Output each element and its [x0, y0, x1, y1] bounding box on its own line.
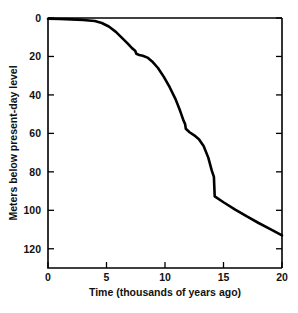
- x-tick-label: 15: [218, 271, 230, 283]
- x-tick-label: 20: [276, 271, 288, 283]
- y-axis-title: Meters below present-day level: [7, 65, 19, 220]
- y-tick-label: 100: [23, 204, 41, 216]
- y-axis-tick-labels: 020406080100120: [23, 12, 41, 255]
- caption-strip: [0, 301, 298, 313]
- y-tick-label: 20: [29, 50, 41, 62]
- x-tick-label: 0: [45, 271, 51, 283]
- y-tick-label: 60: [29, 127, 41, 139]
- x-tick-label: 10: [159, 271, 171, 283]
- x-axis-ticks: [48, 262, 282, 268]
- y-axis-ticks: [48, 18, 282, 249]
- x-axis-tick-labels: 05101520: [45, 271, 288, 283]
- axis-frame: [48, 18, 282, 268]
- x-axis-title: Time (thousands of years ago): [89, 286, 241, 298]
- chart-canvas: 05101520 020406080100120 Time (thousands…: [0, 0, 298, 313]
- y-tick-label: 40: [29, 89, 41, 101]
- y-tick-label: 120: [23, 243, 41, 255]
- y-tick-label: 80: [29, 166, 41, 178]
- data-curve-sea-level: [48, 19, 282, 236]
- x-tick-label: 5: [104, 271, 110, 283]
- sea-level-curve-figure: 05101520 020406080100120 Time (thousands…: [0, 0, 298, 313]
- y-tick-label: 0: [35, 12, 41, 24]
